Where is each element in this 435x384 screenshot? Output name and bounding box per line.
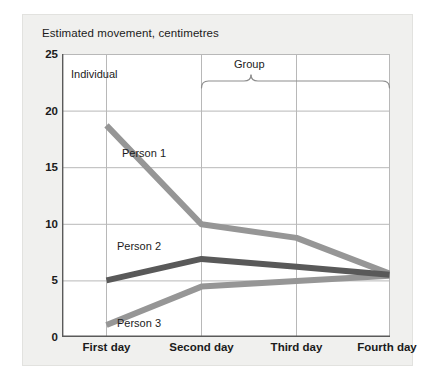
x-tick-first-day: First day	[83, 341, 131, 353]
plot-svg	[62, 54, 390, 337]
x-tick-second-day: Second day	[169, 341, 234, 353]
plot-area: Individual Group Person 1 Person 2 Perso…	[62, 54, 390, 337]
chart-figure: Estimated movement, centimetres 25 20 15…	[0, 0, 435, 384]
x-tick-fourth-day: Fourth day	[357, 341, 416, 353]
x-tick-third-day: Third day	[271, 341, 323, 353]
plot-background	[62, 54, 390, 337]
y-axis-tick-labels: 25 20 15 10 5 0	[28, 54, 58, 337]
x-axis-tick-labels: First day Second day Third day Fourth da…	[62, 341, 390, 361]
series-label-person-3: Person 3	[117, 317, 161, 329]
series-label-person-1: Person 1	[122, 147, 166, 159]
chart-title: Estimated movement, centimetres	[42, 27, 219, 39]
annotation-group: Group	[234, 58, 265, 70]
y-tick-15: 15	[32, 161, 58, 173]
y-tick-10: 10	[32, 218, 58, 230]
y-tick-5: 5	[32, 274, 58, 286]
y-tick-0: 0	[32, 331, 58, 343]
annotation-individual: Individual	[71, 68, 117, 80]
y-tick-20: 20	[32, 105, 58, 117]
y-tick-25: 25	[32, 48, 58, 60]
series-label-person-2: Person 2	[117, 240, 161, 252]
